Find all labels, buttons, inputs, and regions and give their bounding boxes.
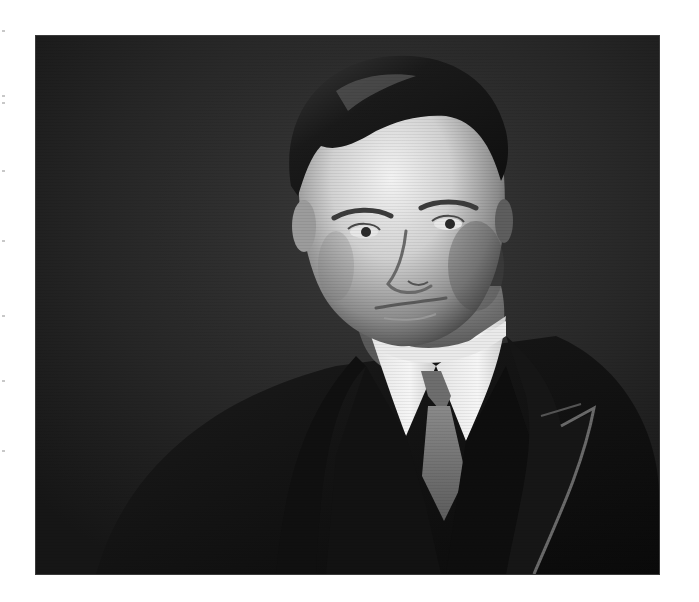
portrait-photo — [36, 36, 659, 574]
print-bleed-marks — [2, 10, 12, 480]
portrait-illustration — [36, 36, 659, 574]
page — [0, 0, 699, 602]
